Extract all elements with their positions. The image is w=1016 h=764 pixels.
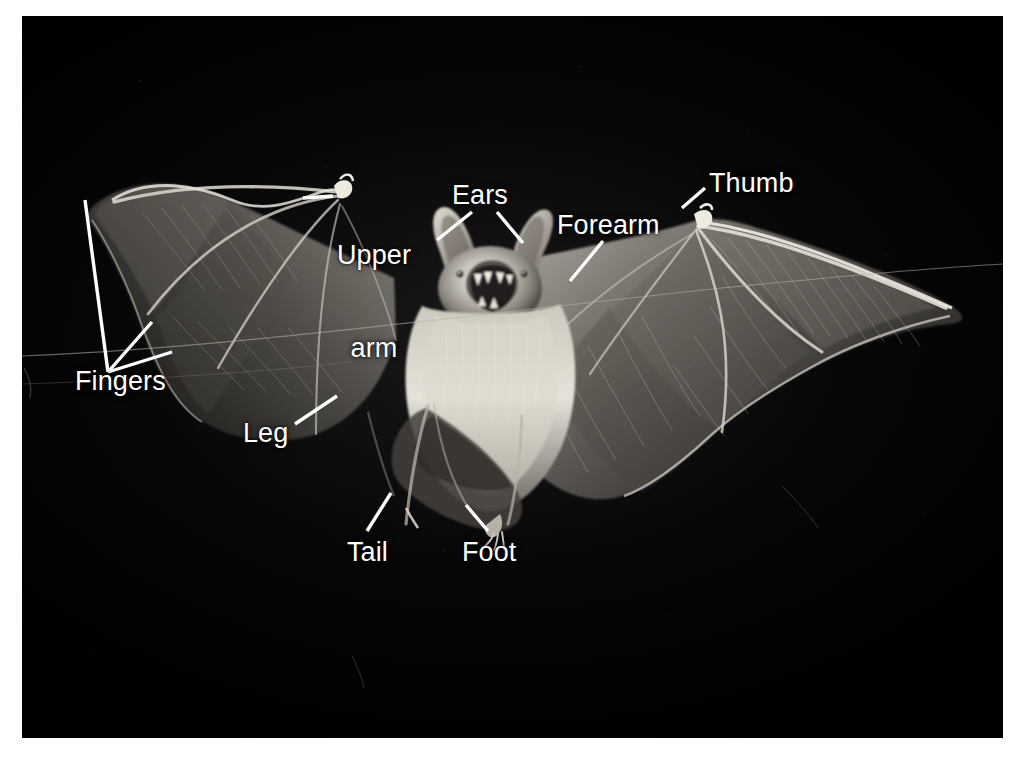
label-thumb: Thumb — [709, 168, 794, 198]
label-tail: Tail — [347, 537, 388, 567]
label-foot: Foot — [462, 537, 516, 567]
figure-page: Upper arm Ears Thumb Forearm Fingers Leg… — [0, 0, 1016, 764]
label-ears: Ears — [452, 180, 508, 210]
film-grain — [22, 16, 1003, 738]
label-fingers: Fingers — [75, 366, 166, 396]
label-leg: Leg — [243, 418, 288, 448]
bat-photograph — [22, 16, 1003, 738]
label-upper-arm: Upper arm — [337, 178, 411, 426]
label-upper-arm-line2: arm — [337, 333, 411, 364]
label-upper-arm-line1: Upper — [337, 240, 411, 271]
label-forearm: Forearm — [557, 210, 660, 240]
